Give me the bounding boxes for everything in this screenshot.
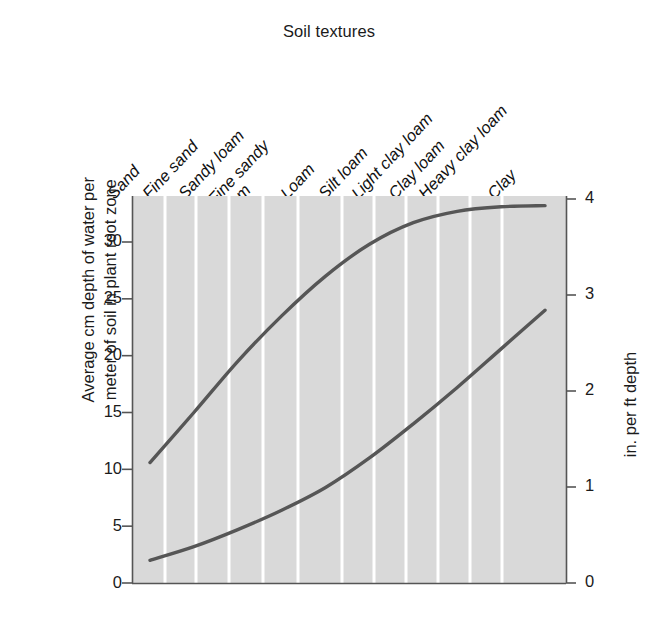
- y-axis-right-title: in. per ft depth: [621, 295, 640, 515]
- y-tick-left-25: 25: [88, 288, 122, 307]
- curve-label-storage-capacity: Storage capacity: [158, 383, 267, 474]
- data-curves: [150, 206, 545, 561]
- curve-label-wilting-point: Wilting point: [154, 504, 243, 562]
- y-tick-right-0: 0: [585, 572, 619, 591]
- y-tick-left-30: 30: [88, 231, 122, 250]
- x-label-clay: Clay: [484, 166, 519, 202]
- ticks-left: [122, 242, 132, 583]
- y-tick-right-2: 2: [585, 380, 619, 399]
- y-tick-right-4: 4: [585, 188, 619, 207]
- y-tick-left-10: 10: [88, 459, 122, 478]
- x-label-loam: Loam: [277, 160, 318, 202]
- y-tick-right-1: 1: [585, 476, 619, 495]
- ticks-right: [566, 199, 576, 583]
- soil-water-chart-figure: Soil textures Sand Fine sand Sandy loam …: [0, 0, 658, 626]
- y-tick-right-3: 3: [585, 284, 619, 303]
- y-tick-left-15: 15: [88, 402, 122, 421]
- y-tick-left-20: 20: [88, 345, 122, 364]
- y-tick-left-0: 0: [88, 573, 122, 592]
- y-tick-left-5: 5: [88, 516, 122, 535]
